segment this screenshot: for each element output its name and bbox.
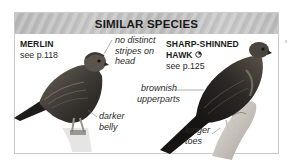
annotation-brownish-upperparts: brownish upperparts bbox=[137, 83, 180, 104]
species-name-line: HAWK bbox=[166, 50, 239, 61]
annotation-line: stripes on bbox=[115, 46, 156, 57]
page-ref-sharp-shinned-hawk[interactable]: see p.125 bbox=[166, 61, 205, 72]
annotation-darker-belly: darker belly bbox=[99, 111, 125, 132]
species-name-text: HAWK bbox=[166, 50, 193, 60]
annotation-line: head bbox=[115, 56, 156, 67]
annotation-line: upperparts bbox=[137, 94, 180, 105]
annotation-line: belly bbox=[99, 122, 125, 133]
species-name-sharp-shinned-hawk: SHARP-SHINNED HAWK bbox=[166, 39, 239, 60]
species-name-line: SHARP-SHINNED bbox=[166, 39, 239, 50]
species-name-merlin: MERLIN bbox=[20, 39, 54, 50]
page-ref-merlin[interactable]: see p.118 bbox=[20, 50, 58, 61]
merlin-illustration bbox=[14, 52, 109, 152]
annotation-no-distinct-stripes: no distinct stripes on head bbox=[115, 35, 156, 67]
annotation-line: darker bbox=[99, 111, 125, 122]
range-map-quarter-circle-icon bbox=[195, 51, 202, 58]
annotation-longer-toes: longer toes bbox=[185, 125, 210, 146]
annotation-line: longer bbox=[185, 125, 210, 136]
annotation-line: toes bbox=[185, 136, 210, 147]
annotation-line: brownish bbox=[137, 83, 180, 94]
annotation-line: no distinct bbox=[115, 35, 156, 46]
page-edge-mark bbox=[285, 40, 287, 43]
